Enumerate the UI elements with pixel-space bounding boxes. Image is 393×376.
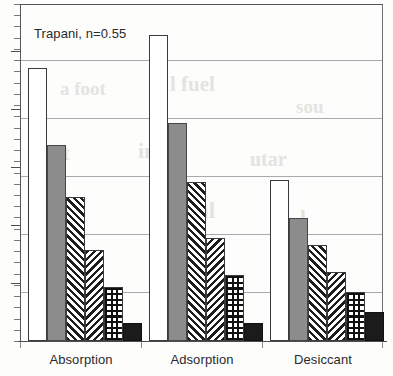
- bar: [85, 250, 104, 341]
- bar: [270, 180, 289, 341]
- bar: [225, 275, 244, 341]
- category-separator-tick: [382, 342, 383, 348]
- chart-annotation: Trapani, n=0.55: [34, 26, 126, 41]
- category-label: Desiccant: [294, 352, 352, 367]
- bar: [149, 35, 168, 341]
- category-label: Adsorption: [170, 352, 233, 367]
- bar: [289, 218, 308, 341]
- bar: [206, 238, 225, 341]
- x-axis-baseline: [18, 341, 387, 342]
- bar: [66, 197, 85, 341]
- category-separator-tick: [141, 342, 142, 348]
- bar: [28, 68, 47, 341]
- bar: [308, 245, 327, 341]
- category-label: Absorption: [49, 352, 112, 367]
- bars-layer: [0, 0, 393, 341]
- bar: [244, 323, 263, 341]
- category-separator-tick: [20, 342, 21, 348]
- bar: [168, 123, 187, 341]
- bar: [365, 312, 384, 341]
- bar: [346, 292, 365, 341]
- bar: [47, 145, 66, 341]
- chart-root: a footl fuelsouIntinniutartrmallme Trapa…: [0, 0, 393, 376]
- category-separator-tick: [262, 342, 263, 348]
- bar: [104, 287, 123, 341]
- category-axis-labels: AbsorptionAdsorptionDesiccant: [0, 352, 393, 374]
- bar: [187, 182, 206, 341]
- bar: [327, 272, 346, 341]
- bar: [123, 323, 142, 341]
